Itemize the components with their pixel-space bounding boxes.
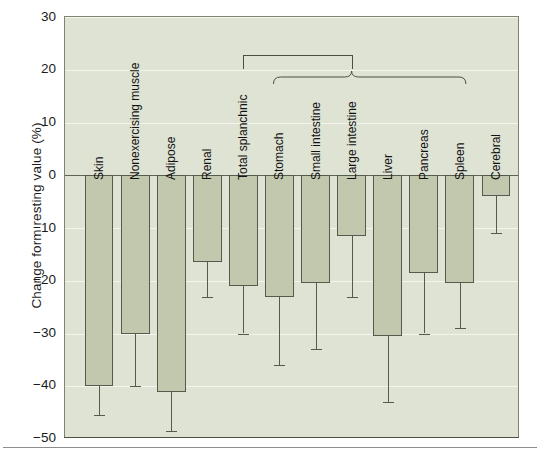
category-label: Small intestine xyxy=(310,102,322,180)
error-bar-cap xyxy=(166,431,177,432)
error-bar-line xyxy=(99,386,100,415)
error-bar-line xyxy=(316,283,317,349)
bar xyxy=(337,175,366,236)
error-bar-line xyxy=(388,336,389,402)
square-bracket-top xyxy=(243,55,351,56)
category-label: Pancreas xyxy=(418,130,430,181)
error-bar-cap xyxy=(202,297,213,298)
y-tick-0: 0 xyxy=(12,168,56,182)
category-label: Adipose xyxy=(165,137,177,180)
bar xyxy=(265,175,294,296)
error-bar-line xyxy=(171,392,172,432)
square-bracket-left-tick xyxy=(243,55,244,69)
category-label: Renal xyxy=(201,149,213,180)
error-bar-cap xyxy=(274,365,285,366)
category-label: Spleen xyxy=(454,143,466,180)
bar xyxy=(121,175,150,333)
error-bar-cap xyxy=(130,386,141,387)
category-label: Skin xyxy=(93,157,105,180)
error-bar-line xyxy=(496,196,497,233)
plot-bottom-rule xyxy=(64,437,519,438)
bar xyxy=(409,175,438,273)
y-tick-m20: −20 xyxy=(12,273,56,287)
error-bar-line xyxy=(352,236,353,297)
error-bar-line xyxy=(243,286,244,333)
gridline-30 xyxy=(65,17,518,18)
category-label: Stomach xyxy=(273,133,285,180)
plot-area: SkinNonexercising muscleAdiposeRenalTota… xyxy=(64,16,519,438)
footer-rule xyxy=(3,447,537,448)
y-tick-m40: −40 xyxy=(12,378,56,392)
error-bar-cap xyxy=(238,334,249,335)
y-axis-tick-labels: 30 20 10 0 −10 −20 −30 −40 −50 xyxy=(0,0,56,456)
chart-figure: Change form resting value (%) 30 20 10 0… xyxy=(0,0,540,456)
bar xyxy=(157,175,186,391)
bar xyxy=(373,175,402,336)
bar xyxy=(85,175,114,386)
error-bar-cap xyxy=(419,334,430,335)
y-tick-m50: −50 xyxy=(12,431,56,445)
bar xyxy=(193,175,222,262)
square-bracket-right-tick xyxy=(352,55,353,69)
category-label: Total splanchnic xyxy=(237,95,249,180)
y-tick-20: 20 xyxy=(12,62,56,76)
category-label: Liver xyxy=(382,154,394,180)
error-bar-cap xyxy=(491,233,502,234)
error-bar-cap xyxy=(311,349,322,350)
error-bar-line xyxy=(135,334,136,387)
category-label: Large intestine xyxy=(346,102,358,181)
y-tick-10: 10 xyxy=(12,115,56,129)
bar xyxy=(229,175,258,286)
bar xyxy=(301,175,330,283)
error-bar-line xyxy=(279,297,280,366)
bar xyxy=(445,175,474,283)
y-tick-m30: −30 xyxy=(12,326,56,340)
gridline--30 xyxy=(65,334,518,335)
y-tick-30: 30 xyxy=(12,10,56,24)
error-bar-cap xyxy=(455,328,466,329)
category-label: Cerebral xyxy=(490,134,502,180)
error-bar-line xyxy=(207,262,208,296)
error-bar-cap xyxy=(347,297,358,298)
error-bar-line xyxy=(460,283,461,328)
error-bar-cap xyxy=(94,415,105,416)
y-tick-m10: −10 xyxy=(12,221,56,235)
error-bar-cap xyxy=(383,402,394,403)
category-label: Nonexercising muscle xyxy=(129,63,141,180)
error-bar-line xyxy=(424,273,425,334)
